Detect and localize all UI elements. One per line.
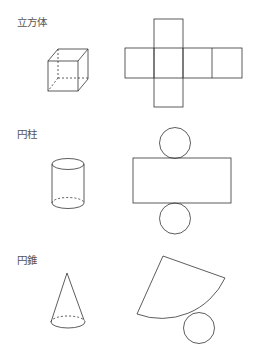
cube-net — [125, 19, 242, 107]
cone-net — [137, 256, 225, 344]
cylinder-figure — [52, 159, 84, 209]
solids-diagram — [0, 0, 255, 360]
cone-figure — [51, 273, 85, 328]
cube-figure — [48, 49, 88, 91]
cylinder-net — [133, 128, 231, 235]
